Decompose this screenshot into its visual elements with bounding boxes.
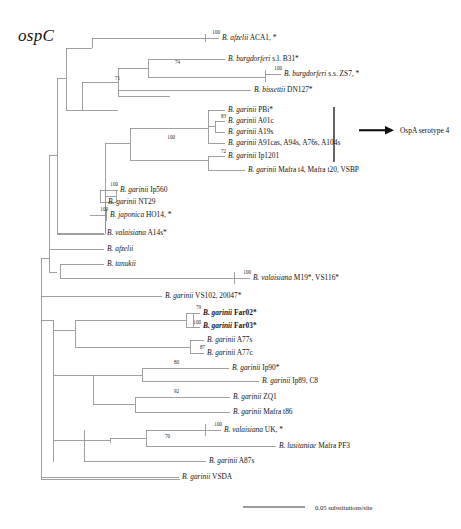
taxon-binomial: B. burgdorferi xyxy=(284,69,326,78)
taxon-strain: VSDA xyxy=(210,472,232,481)
bootstrap-value: 79 xyxy=(196,304,201,310)
taxon-strain: A87s xyxy=(237,456,254,465)
taxon-binomial: B. bissettii xyxy=(254,85,285,94)
taxon-label: B. garinii PBi* xyxy=(228,106,273,114)
taxon-strain: Mafra t4, Mafra t20, VSBP xyxy=(276,165,359,174)
taxon-label: B. burgdorferi s.l. B31* xyxy=(228,55,299,63)
taxon-binomial: B. japonica xyxy=(110,210,144,219)
taxon-label: B. garinii A01c xyxy=(228,117,274,125)
taxon-binomial: B. garinii xyxy=(209,456,237,465)
taxon-label: B. garinii Ip89, C8 xyxy=(262,377,318,385)
taxon-strain: A91cas, A94s, A76s, A104s xyxy=(256,138,340,147)
phylogenetic-tree-figure: ospC xyxy=(0,0,461,529)
taxon-label: B. garinii VS102, 20047* xyxy=(165,292,241,300)
taxon-strain: A77s xyxy=(235,335,252,344)
bootstrap-value: 71 xyxy=(115,75,120,81)
taxon-binomial: B. garinii xyxy=(165,291,193,300)
taxon-strain: ZQ1 xyxy=(261,392,276,401)
taxon-strain: Ip560 xyxy=(148,185,167,194)
taxon-strain: Ip90* xyxy=(260,363,279,372)
taxon-strain: UK, * xyxy=(263,425,283,434)
bootstrap-value: 92 xyxy=(174,388,179,394)
taxon-strain: PBi* xyxy=(256,105,273,114)
taxon-strain: s.l. B31* xyxy=(270,54,298,63)
tree-branches xyxy=(0,0,461,529)
bootstrap-value: 100 xyxy=(193,319,201,325)
taxon-binomial: B. valaisiana xyxy=(107,228,146,237)
ospa-serotype-arrow xyxy=(359,126,394,135)
taxon-strain: NT29 xyxy=(136,197,155,206)
bootstrap-value: 100 xyxy=(110,181,118,187)
taxon-label: B. lusitaniae Mafra PF3 xyxy=(279,442,350,450)
taxon-binomial: B. garinii xyxy=(207,335,235,344)
taxon-binomial: B. garinii xyxy=(228,138,256,147)
bootstrap-value: 72 xyxy=(221,148,226,154)
taxon-binomial: B. garinii xyxy=(120,185,148,194)
taxon-binomial: B. garinii xyxy=(228,151,256,160)
taxon-label: B. garinii Far02* xyxy=(203,309,257,317)
taxon-binomial: B. valaisiana xyxy=(253,273,292,282)
taxon-label: B. garinii A87s xyxy=(209,457,254,465)
taxon-label: B. garinii VSDA xyxy=(182,473,232,481)
bootstrap-value: 74 xyxy=(175,59,180,65)
taxon-label: B. valaisiana A14s* xyxy=(107,229,167,237)
taxon-label: B. burgdorferi s.s. ZS7, * xyxy=(284,70,359,78)
scale-bar-label: 0.05 substitutions/site xyxy=(315,504,373,511)
taxon-label: B. tanukii xyxy=(107,260,136,268)
taxon-binomial: B. garinii xyxy=(233,407,261,416)
taxon-label: B. garinii A77c xyxy=(207,349,253,357)
taxon-strain: A19s xyxy=(256,127,273,136)
taxon-strain: M19*, VS116* xyxy=(292,273,339,282)
taxon-strain: Mafra t86 xyxy=(261,407,292,416)
ospa-serotype-label: OspA serotype 4 xyxy=(400,126,449,135)
taxon-binomial: B. lusitaniae xyxy=(279,441,316,450)
taxon-binomial: B. garinii xyxy=(228,105,256,114)
taxon-binomial: B. valaisiana xyxy=(224,425,263,434)
taxon-label: B. garinii Far03* xyxy=(203,322,257,330)
taxon-binomial: B. tanukii xyxy=(107,259,136,268)
taxon-binomial: B. garinii xyxy=(228,116,256,125)
taxon-strain: Ip1201 xyxy=(256,151,279,160)
taxon-strain: Far03* xyxy=(232,321,256,330)
taxon-binomial: B. garinii xyxy=(207,348,235,357)
bootstrap-value: 87 xyxy=(200,344,205,350)
taxon-strain: A14s* xyxy=(146,228,167,237)
bootstrap-value: 100 xyxy=(214,421,222,427)
taxon-binomial: B. garinii xyxy=(233,392,261,401)
taxon-binomial: B. afzelii xyxy=(222,33,248,42)
taxon-binomial: B. garinii xyxy=(228,127,256,136)
bootstrap-value: 83 xyxy=(221,113,226,119)
taxon-label: B. afzelii xyxy=(107,245,133,253)
taxon-label: B. garinii A77s xyxy=(207,336,252,344)
taxon-label: B. garinii Ip560 xyxy=(120,186,167,194)
taxon-label: B. garinii Ip1201 xyxy=(228,152,279,160)
bootstrap-value: 80 xyxy=(174,359,179,365)
taxon-label: B. valaisiana M19*, VS116* xyxy=(253,274,339,282)
taxon-strain: Mafra PF3 xyxy=(316,441,350,450)
taxon-binomial: B. garinii xyxy=(248,165,276,174)
taxon-label: B. garinii Mafra t4, Mafra t20, VSBP xyxy=(248,166,359,174)
taxon-strain: ACA1, * xyxy=(248,33,276,42)
taxon-binomial: B. garinii xyxy=(108,197,136,206)
taxon-strain: DN127* xyxy=(285,85,312,94)
taxon-label: B. garinii Ip90* xyxy=(232,364,279,372)
taxon-binomial: B. garinii xyxy=(262,376,290,385)
taxon-strain: Ip89, C8 xyxy=(290,376,318,385)
taxon-strain: A01c xyxy=(256,116,273,125)
taxon-strain: s.s. ZS7, * xyxy=(326,69,359,78)
taxon-strain: VS102, 20047* xyxy=(193,291,241,300)
bootstrap-value: 100 xyxy=(100,206,108,212)
taxon-strain: HO14, * xyxy=(144,210,171,219)
taxon-binomial: B. garinii xyxy=(203,308,232,317)
taxon-label: B. garinii A19s xyxy=(228,128,273,136)
taxon-label: B. valaisiana UK, * xyxy=(224,426,283,434)
bootstrap-value: 100 xyxy=(274,65,282,71)
taxon-strain: A77c xyxy=(235,348,252,357)
taxon-binomial: B. burgdorferi xyxy=(228,54,270,63)
bootstrap-value: 70 xyxy=(165,433,170,439)
taxon-strain: Far02* xyxy=(232,308,256,317)
taxon-label: B. garinii ZQ1 xyxy=(233,393,277,401)
taxon-binomial: B. garinii xyxy=(203,321,232,330)
bootstrap-value: 100 xyxy=(243,269,251,275)
taxon-binomial: B. garinii xyxy=(182,472,210,481)
